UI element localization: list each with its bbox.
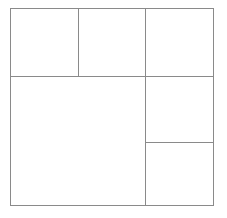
cell-bottom-left-large: [11, 77, 145, 205]
outer-border-bottom: [10, 205, 214, 206]
cell-right-middle: [146, 77, 213, 142]
rectangle-partition-figure: [10, 8, 214, 206]
diagram-root: [0, 0, 227, 218]
cell-top-left: [11, 9, 78, 76]
cell-bottom-right: [146, 143, 213, 205]
cell-top-right: [146, 9, 213, 76]
cell-top-middle: [79, 9, 145, 76]
outer-border-right: [213, 8, 214, 206]
